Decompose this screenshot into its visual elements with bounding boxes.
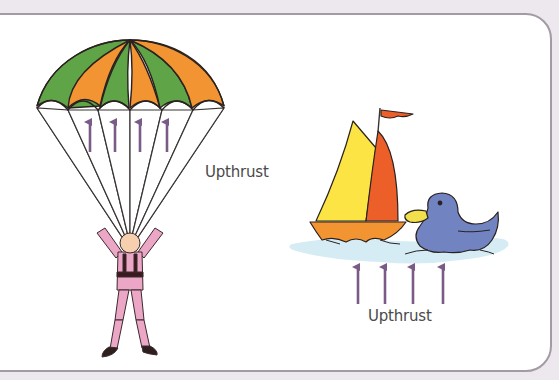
duck-icon bbox=[405, 193, 499, 254]
parachute-upthrust-label: Upthrust bbox=[205, 163, 269, 181]
upthrust-diagram bbox=[0, 0, 559, 380]
water-upthrust-label: Upthrust bbox=[368, 307, 432, 325]
parachute-icon bbox=[37, 40, 224, 240]
sailboat-icon bbox=[310, 108, 413, 244]
parachutist-icon bbox=[97, 228, 163, 357]
water-upthrust-arrows bbox=[358, 267, 443, 304]
